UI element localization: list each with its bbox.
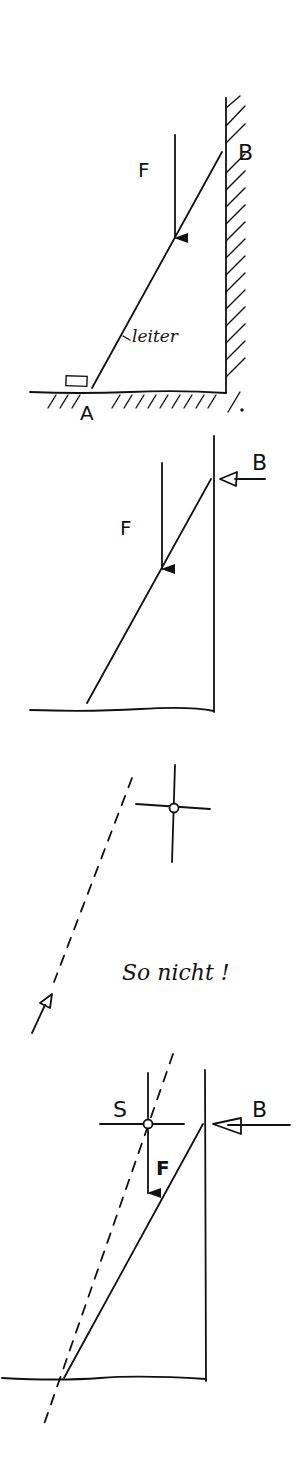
- force-f-label: F: [156, 1156, 170, 1180]
- panel-1-setup: F B A leiter: [30, 96, 253, 425]
- dashed-action-line: [42, 1054, 173, 1430]
- diagram-canvas: F B A leiter F B So nicht !: [0, 0, 307, 1472]
- support-a-label: A: [80, 401, 94, 425]
- open-arrow-head: [40, 994, 52, 1008]
- ground-line: [30, 708, 214, 711]
- ladder-pointer: [123, 336, 130, 340]
- wall-line: [205, 1070, 206, 1381]
- panel-2-free-body: F B: [30, 436, 267, 712]
- dashed-action-line: [54, 778, 132, 982]
- ground-line: [30, 391, 226, 393]
- support-b-label: B: [238, 140, 253, 165]
- ladder: [92, 152, 222, 388]
- crosshair: [136, 765, 210, 862]
- ladder: [87, 479, 211, 703]
- panel-3-wrong: So nicht !: [32, 765, 230, 1033]
- intersection-s-label: S: [113, 1097, 127, 1122]
- ladder-label: leiter: [132, 326, 179, 346]
- panel-4-correct: S F B: [2, 1054, 290, 1430]
- force-f-label: F: [120, 516, 132, 540]
- arrow-shaft: [32, 1005, 45, 1033]
- note-so-nicht: So nicht !: [122, 960, 230, 985]
- ground-line: [2, 1377, 206, 1380]
- force-f-label: F: [138, 158, 150, 182]
- ground-hatching: [48, 395, 216, 408]
- reaction-b-label: B: [252, 450, 267, 475]
- block-at-a: [66, 376, 87, 387]
- ladder: [64, 1124, 203, 1378]
- reaction-b-label: B: [252, 1097, 267, 1122]
